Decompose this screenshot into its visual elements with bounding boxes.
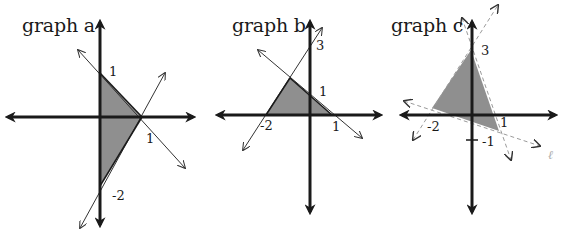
graph-c-label-x-neg2: -2 (427, 119, 440, 134)
graph-a-line-decreasing (78, 50, 185, 168)
graph-b-label-y3: 3 (316, 38, 324, 53)
graph-a (8, 22, 193, 228)
graph-a-label-x1: 1 (146, 131, 154, 146)
graph-b (218, 22, 380, 212)
graph-c-ell-label: ℓ (548, 148, 553, 163)
graph-c-label-y3: 3 (481, 43, 489, 58)
graph-b-title: graph b (232, 14, 306, 36)
graph-c-label-x1: 1 (500, 115, 508, 130)
graph-b-label-x-neg2: -2 (260, 118, 273, 133)
graph-a-region (100, 73, 142, 186)
graph-b-label-x1: 1 (332, 119, 340, 134)
graph-c (402, 5, 555, 212)
graph-a-label-y1: 1 (109, 64, 117, 79)
graph-a-label-y-neg2: -2 (112, 188, 125, 203)
graph-c-label-y-neg1: -1 (482, 134, 495, 149)
graph-c-region (432, 50, 499, 131)
graph-b-label-y1: 1 (319, 84, 327, 99)
graph-a-title: graph a (22, 14, 95, 36)
graph-c-title: graph c (391, 14, 463, 36)
